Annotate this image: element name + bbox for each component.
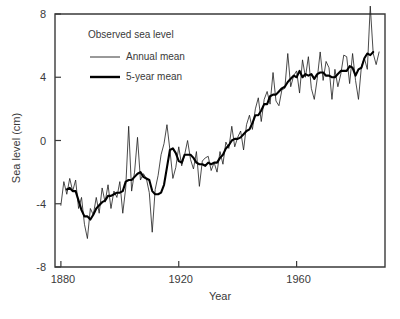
series-group	[61, 6, 379, 238]
legend-label-five-year-mean: 5-year mean	[126, 71, 182, 82]
sea-level-chart-figure: 840-4-8 188019201960 Observed sea level …	[0, 0, 400, 319]
y-tick-label: -4	[36, 198, 46, 210]
x-tick-label: 1880	[51, 273, 75, 285]
chart-canvas: 840-4-8 188019201960 Observed sea level …	[0, 0, 400, 319]
y-tick-label: 0	[40, 135, 46, 147]
legend: Observed sea level Annual mean 5-year me…	[88, 29, 185, 82]
y-tick-label: -8	[36, 261, 46, 273]
plot-frame	[55, 14, 385, 267]
x-axis-title: Year	[209, 290, 232, 302]
x-axis-ticks: 188019201960	[51, 261, 311, 285]
y-axis-title: Sea level (cm)	[10, 113, 22, 183]
axis-frame-path	[55, 14, 385, 267]
y-tick-label: 4	[40, 71, 46, 83]
annual-mean-line	[61, 6, 379, 238]
legend-title: Observed sea level	[88, 29, 174, 40]
x-tick-label: 1960	[286, 273, 310, 285]
legend-label-annual-mean: Annual mean	[126, 51, 185, 62]
y-axis-ticks: 840-4-8	[36, 8, 61, 273]
x-tick-label: 1920	[169, 273, 193, 285]
y-tick-label: 8	[40, 8, 46, 20]
